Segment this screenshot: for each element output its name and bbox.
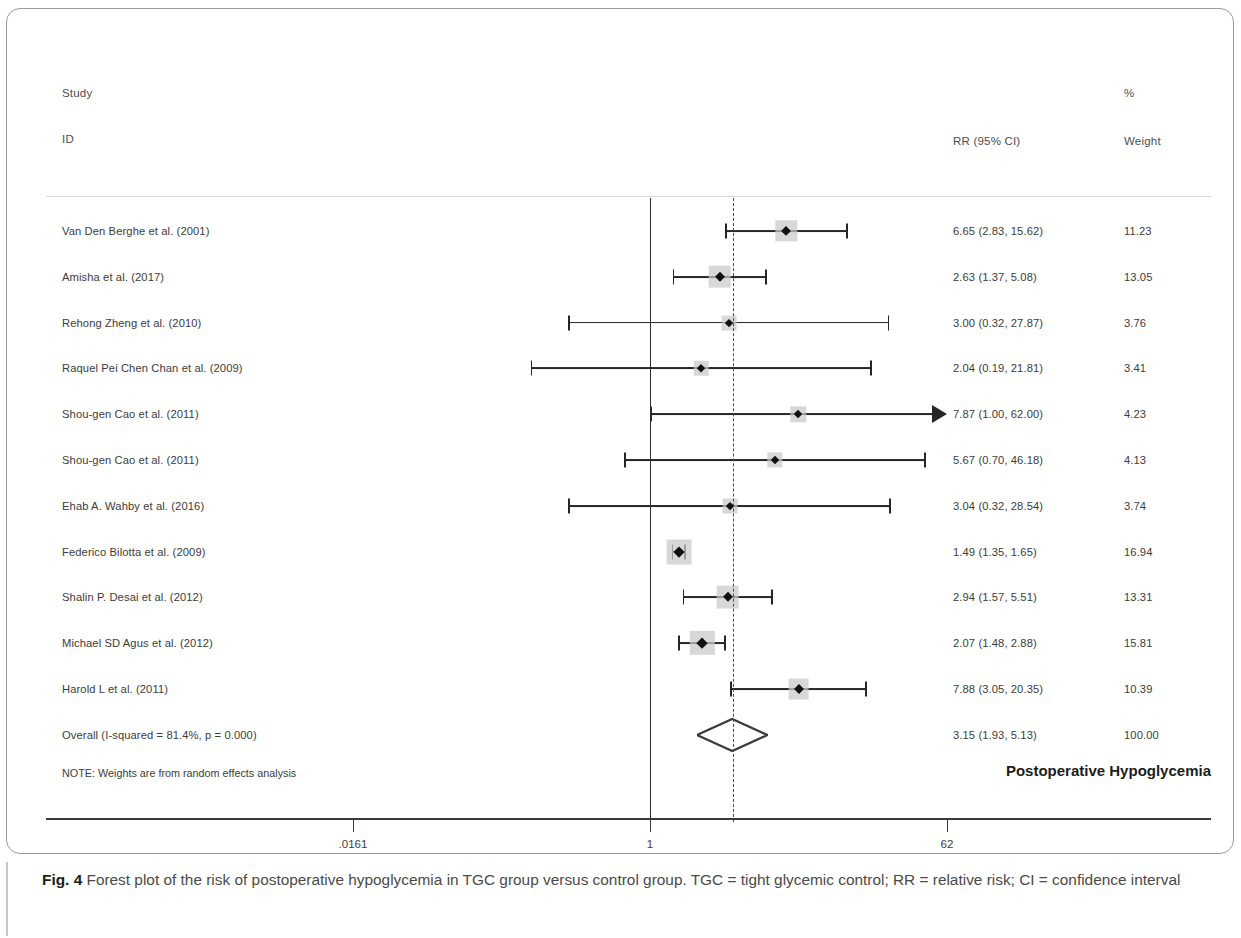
ci-right-cap	[724, 636, 726, 651]
forest-row: Overall (I-squared = 81.4%, p = 0.000)3.…	[0, 712, 1241, 758]
overall-weight: 100.00	[1124, 729, 1159, 741]
forest-row: Federico Bilotta et al. (2009)1.49 (1.35…	[0, 529, 1241, 575]
study-label: Amisha et al. (2017)	[62, 271, 164, 283]
ci-right-cap	[870, 361, 872, 376]
ci-truncation-arrow	[932, 405, 947, 423]
forest-row: Ehab A. Wahby et al. (2016)3.04 (0.32, 2…	[0, 483, 1241, 529]
forest-row: Shou-gen Cao et al. (2011)7.87 (1.00, 62…	[0, 391, 1241, 437]
study-weight: 13.31	[1124, 591, 1153, 603]
ci-left-cap	[531, 361, 533, 376]
study-weight: 3.74	[1124, 500, 1146, 512]
study-weight: 13.05	[1124, 271, 1153, 283]
header-study: Study	[62, 87, 92, 99]
ci-left-cap	[673, 269, 675, 284]
study-rr-ci: 7.87 (1.00, 62.00)	[953, 408, 1043, 420]
x-axis-tick	[353, 819, 354, 832]
weights-note: NOTE: Weights are from random effects an…	[62, 767, 296, 779]
study-rr-ci: 5.67 (0.70, 46.18)	[953, 454, 1043, 466]
x-axis-tick	[947, 819, 948, 832]
figure-caption: Fig. 4 Forest plot of the risk of postop…	[42, 869, 1212, 891]
study-rr-ci: 6.65 (2.83, 15.62)	[953, 225, 1043, 237]
study-label: Shou-gen Cao et al. (2011)	[62, 408, 199, 420]
ci-right-cap	[924, 453, 926, 468]
study-label: Raquel Pei Chen Chan et al. (2009)	[62, 362, 243, 374]
pooled-estimate-line	[733, 198, 734, 822]
null-reference-line	[650, 198, 651, 822]
ci-right-cap	[865, 682, 867, 697]
caption-side-bar	[6, 862, 8, 936]
x-axis-line	[46, 818, 1211, 820]
study-rr-ci: 2.94 (1.57, 5.51)	[953, 591, 1037, 603]
study-rr-ci: 3.04 (0.32, 28.54)	[953, 500, 1043, 512]
study-rr-ci: 2.63 (1.37, 5.08)	[953, 271, 1037, 283]
forest-row: Van Den Berghe et al. (2001)6.65 (2.83, …	[0, 208, 1241, 254]
study-weight: 4.23	[1124, 408, 1146, 420]
ci-left-cap	[624, 453, 626, 468]
ci-left-cap	[568, 498, 570, 513]
header-weight: Weight	[1124, 135, 1161, 147]
study-rr-ci: 2.07 (1.48, 2.88)	[953, 637, 1037, 649]
study-label: Shou-gen Cao et al. (2011)	[62, 454, 199, 466]
x-axis-tick	[650, 819, 651, 832]
header-rr-ci: RR (95% CI)	[953, 135, 1020, 147]
study-weight: 3.76	[1124, 317, 1146, 329]
forest-row: Amisha et al. (2017)2.63 (1.37, 5.08)13.…	[0, 254, 1241, 300]
study-weight: 3.41	[1124, 362, 1146, 374]
ci-right-cap	[765, 269, 767, 284]
overall-rr-ci: 3.15 (1.93, 5.13)	[953, 729, 1037, 741]
ci-right-cap	[889, 498, 891, 513]
forest-row: Michael SD Agus et al. (2012)2.07 (1.48,…	[0, 620, 1241, 666]
ci-left-cap	[725, 224, 727, 239]
study-weight: 11.23	[1124, 225, 1152, 237]
forest-row: Shou-gen Cao et al. (2011)5.67 (0.70, 46…	[0, 437, 1241, 483]
study-label: Harold L et al. (2011)	[62, 683, 168, 695]
figure-root: Study ID RR (95% CI) % Weight Van Den Be…	[0, 0, 1241, 938]
ci-left-cap	[568, 315, 570, 330]
caption-text: Forest plot of the risk of postoperative…	[82, 871, 1180, 888]
ci-right-cap	[888, 315, 890, 330]
forest-row: Shalin P. Desai et al. (2012)2.94 (1.57,…	[0, 574, 1241, 620]
x-axis-tick-label: .0161	[339, 838, 368, 850]
forest-plot: Study ID RR (95% CI) % Weight Van Den Be…	[0, 0, 1241, 860]
x-axis-tick-label: 62	[941, 838, 954, 850]
study-rr-ci: 3.00 (0.32, 27.87)	[953, 317, 1043, 329]
study-weight: 10.39	[1124, 683, 1153, 695]
study-weight: 15.81	[1124, 637, 1153, 649]
study-rr-ci: 2.04 (0.19, 21.81)	[953, 362, 1043, 374]
study-weight: 4.13	[1124, 454, 1146, 466]
study-label: Michael SD Agus et al. (2012)	[62, 637, 213, 649]
x-axis-tick-label: 1	[647, 838, 653, 850]
ci-left-cap	[678, 636, 680, 651]
overall-label: Overall (I-squared = 81.4%, p = 0.000)	[62, 729, 257, 741]
study-label: Ehab A. Wahby et al. (2016)	[62, 500, 204, 512]
forest-row: Harold L et al. (2011)7.88 (3.05, 20.35)…	[0, 666, 1241, 712]
study-rr-ci: 1.49 (1.35, 1.65)	[953, 546, 1037, 558]
ci-right-cap	[846, 224, 848, 239]
study-weight: 16.94	[1124, 546, 1153, 558]
study-rr-ci: 7.88 (3.05, 20.35)	[953, 683, 1043, 695]
study-label: Van Den Berghe et al. (2001)	[62, 225, 210, 237]
caption-label: Fig. 4	[42, 871, 82, 888]
ci-left-cap	[683, 590, 685, 605]
study-label: Rehong Zheng et al. (2010)	[62, 317, 201, 329]
study-label: Shalin P. Desai et al. (2012)	[62, 591, 203, 603]
forest-row: Rehong Zheng et al. (2010)3.00 (0.32, 27…	[0, 300, 1241, 346]
header-id: ID	[62, 133, 74, 145]
header-percent: %	[1124, 87, 1134, 99]
plot-title: Postoperative Hypoglycemia	[1006, 762, 1211, 779]
ci-right-cap	[771, 590, 773, 605]
forest-row: Raquel Pei Chen Chan et al. (2009)2.04 (…	[0, 345, 1241, 391]
study-label: Federico Bilotta et al. (2009)	[62, 546, 206, 558]
header-rule	[46, 196, 1211, 197]
